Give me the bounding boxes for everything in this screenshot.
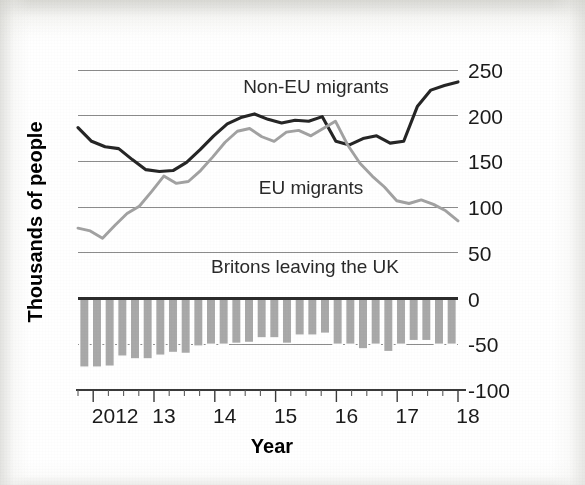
y-tick-label: 50 xyxy=(468,242,491,265)
bar xyxy=(447,299,456,345)
bar xyxy=(143,299,152,359)
y-tick-label: 0 xyxy=(468,288,480,311)
bar xyxy=(181,299,190,354)
series-label-non-eu: Non-EU migrants xyxy=(243,76,389,97)
y-tick-label: 150 xyxy=(468,150,503,173)
bars-series-britons xyxy=(80,299,457,368)
bar xyxy=(270,299,279,338)
bar xyxy=(371,299,380,345)
y-tick-label: -50 xyxy=(468,333,498,356)
series-label-britons: Britons leaving the UK xyxy=(211,256,399,277)
line-series xyxy=(78,82,458,238)
bar xyxy=(308,299,317,336)
x-tick-label: 16 xyxy=(335,404,358,427)
bar xyxy=(156,299,165,356)
x-axis-title: Year xyxy=(251,435,293,457)
chart-page: 250200150100500-50-100 2012131415161718 … xyxy=(0,0,585,485)
migration-chart: 250200150100500-50-100 2012131415161718 … xyxy=(0,0,585,485)
x-tick-label: 18 xyxy=(456,404,479,427)
bar xyxy=(358,299,367,349)
x-tick-label: 2012 xyxy=(92,404,139,427)
bar xyxy=(130,299,139,359)
bar xyxy=(295,299,304,336)
bar xyxy=(244,299,253,343)
y-tick-label: 100 xyxy=(468,196,503,219)
bar xyxy=(80,299,89,368)
x-tick-label: 13 xyxy=(152,404,175,427)
bar xyxy=(219,299,228,345)
bar xyxy=(194,299,203,347)
bar xyxy=(422,299,431,341)
bar xyxy=(206,299,215,345)
bar xyxy=(346,299,355,345)
bar xyxy=(92,299,101,368)
x-tick-labels: 2012131415161718 xyxy=(92,404,480,427)
bar xyxy=(282,299,291,344)
bar xyxy=(384,299,393,352)
bar xyxy=(105,299,114,367)
y-tick-label: 250 xyxy=(468,59,503,82)
y-tick-labels: 250200150100500-50-100 xyxy=(468,59,510,402)
bar xyxy=(333,299,342,345)
x-tick-label: 14 xyxy=(213,404,237,427)
bar xyxy=(168,299,177,353)
y-tick-label: -100 xyxy=(468,379,510,402)
bar xyxy=(257,299,266,338)
bar xyxy=(396,299,405,345)
bar xyxy=(118,299,127,357)
series-label-eu: EU migrants xyxy=(259,177,364,198)
x-tick-label: 17 xyxy=(396,404,419,427)
bar xyxy=(232,299,241,344)
y-axis-title: Thousands of people xyxy=(24,121,46,322)
y-tick-label: 200 xyxy=(468,105,503,128)
x-axis xyxy=(76,390,466,402)
x-tick-label: 15 xyxy=(274,404,297,427)
bar xyxy=(320,299,329,334)
bar xyxy=(434,299,443,345)
bar xyxy=(409,299,418,341)
